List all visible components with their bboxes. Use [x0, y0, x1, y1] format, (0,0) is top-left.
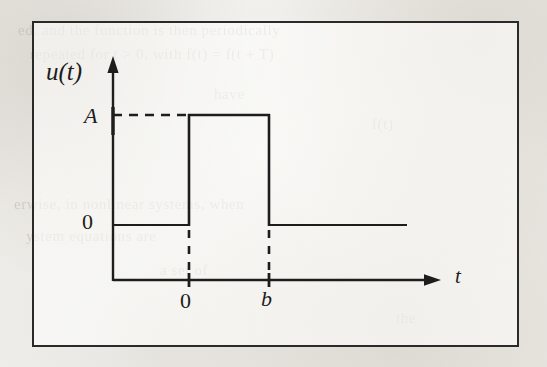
x-tick-label-b: b — [261, 286, 272, 312]
y-tick-label-zero: 0 — [82, 209, 93, 235]
scanned-figure-page: ed, and the function is then periodicall… — [0, 0, 547, 367]
x-axis-label-t: t — [455, 264, 461, 289]
y-axis — [107, 56, 118, 281]
x-axis — [113, 274, 441, 286]
figure-frame-border — [32, 21, 519, 347]
pulse-function-plot — [34, 23, 517, 345]
y-axis-label-ut: u(t) — [46, 58, 82, 86]
y-tick-label-amplitude: A — [84, 103, 97, 129]
x-tick-label-zero: 0 — [180, 288, 191, 314]
